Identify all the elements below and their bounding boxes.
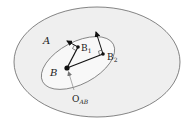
label-origin-sub: AB — [78, 98, 88, 105]
label-b2-sub: 2 — [114, 56, 118, 63]
label-region-b: B — [49, 67, 57, 78]
diagram-canvas: A B B1 B2 OAB — [0, 0, 194, 121]
label-region-a: A — [42, 35, 50, 46]
point-b1 — [76, 45, 80, 49]
label-b1-sub: 1 — [88, 47, 92, 54]
label-origin-main: O — [72, 94, 79, 104]
point-origin — [64, 65, 69, 70]
point-b2 — [101, 52, 105, 56]
